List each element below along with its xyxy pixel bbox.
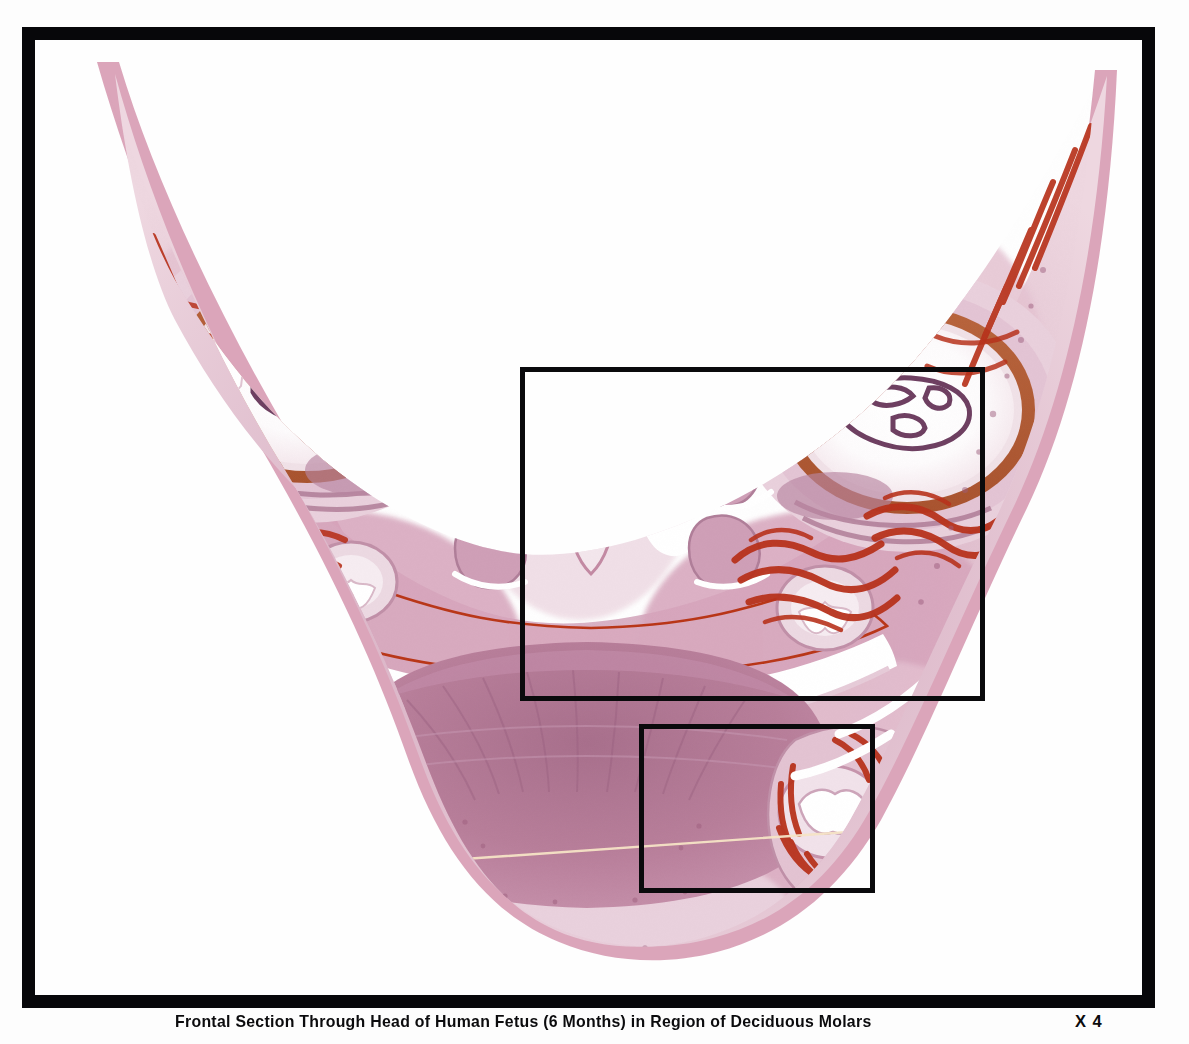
plate-caption: Frontal Section Through Head of Human Fe… <box>175 1012 872 1031</box>
roi-rectangle-mandibular <box>639 724 875 893</box>
mandibular-tooth-germ-left <box>267 764 403 888</box>
photo-frame-inner <box>35 40 1142 995</box>
caption-row: Frontal Section Through Head of Human Fe… <box>22 1012 1155 1042</box>
histology-plate: Frontal Section Through Head of Human Fe… <box>0 0 1189 1044</box>
photo-frame <box>22 27 1155 1008</box>
magnification-label: X 4 <box>1075 1012 1103 1031</box>
roi-rectangle-maxillary <box>520 367 985 701</box>
